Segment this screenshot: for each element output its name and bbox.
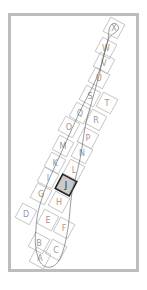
grid-cell-a[interactable]: A xyxy=(29,247,51,269)
grid-cell-f[interactable]: F xyxy=(53,217,75,239)
grid-cell-label: C xyxy=(53,246,59,255)
grid-cell-n[interactable]: N xyxy=(71,142,93,164)
grid-cell-label: P xyxy=(86,134,91,143)
grid-cell-d[interactable]: D xyxy=(15,203,37,225)
grid-cell-e[interactable]: E xyxy=(37,209,59,231)
grid-cell-m[interactable]: M xyxy=(52,135,74,157)
grid-cell-label: L xyxy=(72,166,77,175)
grid-cell-label: F xyxy=(62,224,67,233)
grid-cell-label: R xyxy=(93,116,99,125)
grid-cell-label: H xyxy=(56,198,62,207)
grid-cell-label: V xyxy=(101,59,107,68)
grid-cell-label: S xyxy=(87,92,92,101)
grid-cell-label: E xyxy=(45,216,50,225)
grid-cell-label: D xyxy=(23,210,29,219)
grid-cell-p[interactable]: P xyxy=(77,127,99,149)
grid-cell-k[interactable]: K xyxy=(44,152,66,174)
grid-cell-i[interactable]: I xyxy=(37,167,59,189)
grid-cell-label: B xyxy=(36,239,42,248)
grid-cells: ABCDEFGHIJKLMNOPQRSTUVWX xyxy=(15,17,125,269)
grid-cell-label: X xyxy=(111,24,117,33)
grid-cell-label: J xyxy=(64,181,67,190)
grid-cell-q[interactable]: Q xyxy=(69,102,91,124)
grid-cell-x[interactable]: X xyxy=(103,17,125,39)
grid-cell-label: I xyxy=(47,174,49,183)
grid-cell-label: K xyxy=(52,159,58,168)
index-map: ABCDEFGHIJKLMNOPQRSTUVWX xyxy=(0,0,147,290)
grid-cell-label: T xyxy=(104,99,110,108)
